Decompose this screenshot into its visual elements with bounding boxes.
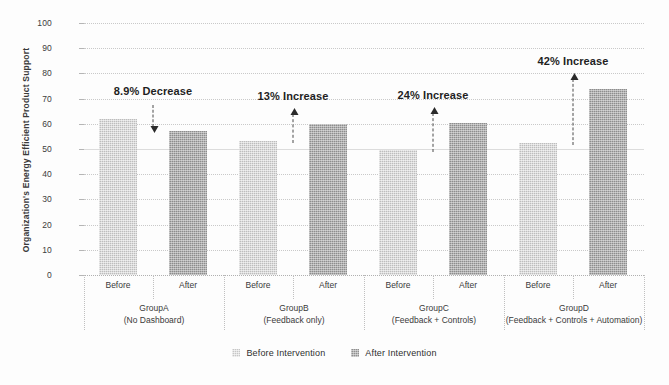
bar-before-groupb <box>239 141 277 275</box>
plot-area: 10090807060504030201008.9% Decrease13% I… <box>84 23 644 275</box>
x-axis-separator <box>293 275 294 299</box>
x-tick-before-groupc: Before <box>385 280 410 290</box>
legend-label: Before Intervention <box>246 348 325 358</box>
group-label-groupa: GroupA(No Dashboard) <box>124 302 184 326</box>
change-arrow-groupc <box>433 113 434 153</box>
bar-after-groupc <box>449 123 487 275</box>
x-axis-separator <box>573 275 574 299</box>
legend-item-before[interactable]: Before Intervention <box>232 348 325 358</box>
y-tick-mark <box>79 149 84 150</box>
y-tick-mark <box>79 225 84 226</box>
y-tick-mark <box>79 124 84 125</box>
y-tick-mark <box>79 73 84 74</box>
x-axis-group-separator <box>364 275 365 330</box>
group-name: GroupC <box>392 302 476 314</box>
x-axis-group-separator <box>224 275 225 330</box>
y-tick-mark <box>79 23 84 24</box>
group-label-groupb: GroupB(Feedback only) <box>264 302 325 326</box>
y-axis-tick-label: 90 <box>26 43 52 53</box>
y-axis-tick-label: 100 <box>26 18 52 28</box>
legend-swatch-icon <box>351 349 359 357</box>
bar-after-groupd <box>589 89 627 275</box>
y-tick-mark <box>79 99 84 100</box>
y-axis-tick-label: 10 <box>26 245 52 255</box>
group-name: GroupD <box>506 302 643 314</box>
gridline <box>84 73 644 74</box>
y-axis-tick-label: 60 <box>26 119 52 129</box>
annotation-groupc: 24% Increase <box>398 89 469 101</box>
bar-chart-figure: Organization's Energy Efficient Product … <box>0 0 669 385</box>
y-tick-mark <box>79 199 84 200</box>
x-axis-band: BeforeAfterGroupA(No Dashboard)BeforeAft… <box>84 275 644 337</box>
group-subtitle: (Feedback + Controls) <box>392 314 476 326</box>
legend-swatch-icon <box>232 349 240 357</box>
x-tick-after-groupd: After <box>599 280 617 290</box>
x-tick-before-groupa: Before <box>105 280 130 290</box>
y-tick-mark <box>79 48 84 49</box>
x-axis-group-separator <box>84 275 85 330</box>
gridline <box>84 23 644 24</box>
y-axis-tick-label: 70 <box>26 94 52 104</box>
group-label-groupd: GroupD(Feedback + Controls + Automation) <box>506 302 643 326</box>
y-tick-mark <box>79 250 84 251</box>
x-axis-separator <box>433 275 434 299</box>
change-arrow-groupd <box>573 79 574 145</box>
group-name: GroupA <box>124 302 184 314</box>
change-arrow-groupb <box>293 114 294 144</box>
legend-label: After Intervention <box>365 348 436 358</box>
x-axis-group-separator <box>644 275 645 330</box>
gridline <box>84 149 644 150</box>
x-tick-before-groupb: Before <box>245 280 270 290</box>
group-subtitle: (No Dashboard) <box>124 314 184 326</box>
change-arrow-groupa <box>153 105 154 128</box>
y-axis-tick-label: 40 <box>26 169 52 179</box>
x-tick-after-groupa: After <box>179 280 197 290</box>
group-label-groupc: GroupC(Feedback + Controls) <box>392 302 476 326</box>
group-subtitle: (Feedback + Controls + Automation) <box>506 314 643 326</box>
annotation-groupb: 13% Increase <box>258 90 329 102</box>
bar-after-groupb <box>309 124 347 275</box>
x-tick-after-groupc: After <box>459 280 477 290</box>
bar-before-groupd <box>519 143 557 275</box>
bar-before-groupa <box>99 119 137 275</box>
gridline <box>84 124 644 125</box>
y-axis-tick-label: 50 <box>26 144 52 154</box>
annotation-groupd: 42% Increase <box>538 55 609 67</box>
y-axis-tick-label: 30 <box>26 194 52 204</box>
x-axis-separator <box>153 275 154 299</box>
legend-item-after[interactable]: After Intervention <box>351 348 436 358</box>
gridline <box>84 199 644 200</box>
y-axis-tick-label: 0 <box>26 270 52 280</box>
bar-after-groupa <box>169 131 207 275</box>
y-axis-tick-label: 80 <box>26 68 52 78</box>
gridline <box>84 250 644 251</box>
x-tick-before-groupd: Before <box>525 280 550 290</box>
group-name: GroupB <box>264 302 325 314</box>
gridline <box>84 225 644 226</box>
gridline <box>84 174 644 175</box>
y-tick-mark <box>79 174 84 175</box>
gridline <box>84 48 644 49</box>
group-subtitle: (Feedback only) <box>264 314 325 326</box>
annotation-groupa: 8.9% Decrease <box>114 85 192 97</box>
gridline <box>84 99 644 100</box>
chart-legend: Before InterventionAfter Intervention <box>0 348 669 358</box>
x-tick-after-groupb: After <box>319 280 337 290</box>
bar-before-groupc <box>379 150 417 275</box>
y-axis-tick-label: 20 <box>26 220 52 230</box>
